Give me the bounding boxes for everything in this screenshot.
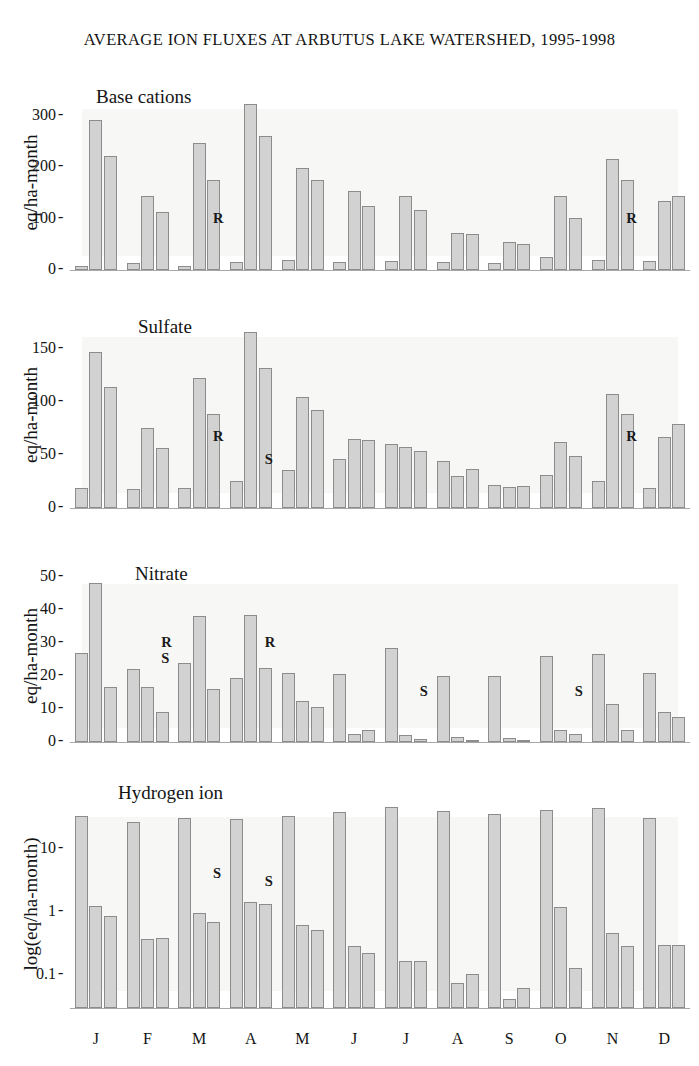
bar (156, 712, 169, 742)
month-label-2: M (173, 1030, 225, 1048)
y-tick-mark: - (58, 964, 63, 982)
y-tick-label: 30 (8, 633, 56, 651)
bar (517, 244, 530, 270)
bar (141, 687, 154, 742)
bar (569, 218, 582, 271)
bar (244, 332, 257, 508)
bar (207, 689, 220, 742)
y-tick-label: 20 (8, 666, 56, 684)
shaded-envelope (82, 584, 678, 728)
bar (540, 656, 553, 742)
bar (503, 242, 516, 270)
bar (178, 818, 191, 1008)
month-label-11: D (638, 1030, 690, 1048)
bar (437, 676, 450, 742)
month-label-7: A (432, 1030, 484, 1048)
y-tick-label: 0 (8, 260, 56, 278)
bar (193, 616, 206, 742)
bar (540, 810, 553, 1008)
bar (348, 946, 361, 1008)
bar (451, 476, 464, 508)
bar (399, 447, 412, 508)
y-tick-mark: - (58, 566, 63, 584)
bar (104, 156, 117, 270)
bar (230, 262, 243, 270)
bar (127, 489, 140, 508)
bar (658, 945, 671, 1008)
bar (296, 397, 309, 508)
bar (104, 916, 117, 1008)
bar (592, 654, 605, 742)
bar (156, 938, 169, 1008)
bar (230, 819, 243, 1008)
figure-title: AVERAGE ION FLUXES AT ARBUTUS LAKE WATER… (0, 30, 699, 50)
bar (156, 212, 169, 270)
annotation-s: S (161, 650, 169, 667)
bar (672, 717, 685, 742)
y-tick-label: 0.1 (8, 965, 56, 983)
y-tick-label: 0 (8, 732, 56, 750)
y-tick-label: 1 (8, 902, 56, 920)
bar (89, 906, 102, 1008)
y-tick-mark: - (58, 838, 63, 856)
month-label-1: F (122, 1030, 174, 1048)
bar (658, 712, 671, 742)
bar (643, 488, 656, 508)
bar (592, 481, 605, 508)
bar (503, 487, 516, 508)
month-label-5: J (328, 1030, 380, 1048)
y-tick-label: 40 (8, 600, 56, 618)
bar (466, 234, 479, 270)
bar (451, 233, 464, 270)
bar (385, 444, 398, 508)
bar (606, 704, 619, 742)
month-label-8: S (483, 1030, 535, 1048)
bar (672, 196, 685, 270)
bar (362, 730, 375, 742)
bar (569, 456, 582, 508)
bar (466, 974, 479, 1008)
panel-title: Base cations (96, 86, 192, 108)
bar (104, 387, 117, 508)
bar (414, 451, 427, 508)
bar (592, 260, 605, 270)
y-tick-mark: - (58, 901, 63, 919)
bar (333, 812, 346, 1008)
annotation-r: R (265, 634, 275, 651)
y-tick-mark: - (58, 698, 63, 716)
bar (156, 448, 169, 508)
bar (672, 945, 685, 1008)
bar (451, 983, 464, 1008)
bar (259, 904, 272, 1008)
bar (259, 368, 272, 508)
y-tick-mark: - (58, 391, 63, 409)
bar (311, 180, 324, 270)
bar (89, 352, 102, 508)
bar (75, 488, 88, 508)
month-label-10: N (587, 1030, 639, 1048)
bar (230, 481, 243, 508)
y-tick-mark: - (58, 497, 63, 515)
y-tick-mark: - (58, 599, 63, 617)
bar (488, 263, 501, 270)
y-tick-label: 10 (8, 699, 56, 717)
bar (348, 734, 361, 742)
shaded-envelope (82, 337, 678, 493)
baseline (70, 508, 690, 509)
bar (311, 707, 324, 742)
bar (385, 261, 398, 270)
bar (244, 902, 257, 1008)
bar (503, 999, 516, 1008)
month-label-6: J (380, 1030, 432, 1048)
y-tick-label: 0 (8, 498, 56, 516)
panel-title: Hydrogen ion (118, 782, 223, 804)
bar (296, 925, 309, 1008)
y-tick-mark: - (58, 208, 63, 226)
bar (362, 206, 375, 270)
bar (244, 615, 257, 742)
bar (141, 196, 154, 270)
bar (385, 648, 398, 742)
y-tick-mark: - (58, 665, 63, 683)
annotation-s: S (575, 683, 583, 700)
bar (282, 470, 295, 508)
